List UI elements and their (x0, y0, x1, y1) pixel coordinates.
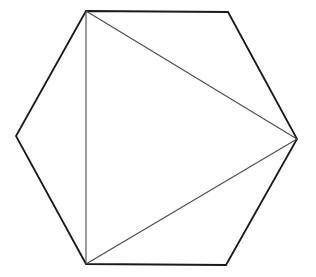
hexagon-triangle-diagram (0, 0, 316, 277)
hexagon-outline (16, 11, 297, 265)
inscribed-triangle (86, 11, 297, 264)
